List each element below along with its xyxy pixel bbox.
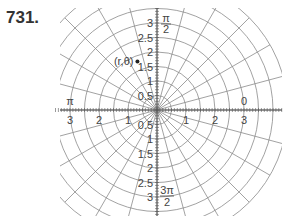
- radial-label-up: 1.5: [138, 61, 153, 73]
- radial-label-down: 1: [147, 133, 153, 145]
- horizontal-label-left: 2: [96, 114, 102, 126]
- polar-grid-diagram: 0.50.5111.51.5222.52.5331122330ππ23π2 (r…: [0, 0, 283, 221]
- radial-label-down: 1.5: [138, 148, 153, 160]
- grid-spoke: [157, 76, 283, 110]
- horizontal-label-left: 1: [125, 114, 131, 126]
- radial-label-up: 2.5: [138, 32, 153, 44]
- radial-label-down: 3: [147, 191, 153, 203]
- horizontal-label-left: 3: [67, 114, 73, 126]
- radial-label-up: 1: [147, 75, 153, 87]
- radial-label-down: 2: [147, 162, 153, 174]
- angle-label-0: 0: [241, 95, 247, 107]
- angle-label-pi-over-2-den: 2: [163, 23, 169, 35]
- grid-spoke: [157, 18, 249, 110]
- grid-spoke: [157, 110, 283, 144]
- radial-label-up: 0.5: [138, 90, 153, 102]
- horizontal-label-right: 1: [183, 114, 189, 126]
- angle-label-3pi-over-2-num: 3π: [160, 184, 174, 196]
- radial-label-up: 3: [147, 17, 153, 29]
- point-marker: [135, 60, 139, 64]
- angle-label-pi: π: [66, 95, 74, 107]
- horizontal-label-right: 3: [241, 114, 247, 126]
- angle-label-3pi-over-2-den: 2: [164, 196, 170, 208]
- radial-label-down: 0.5: [138, 119, 153, 131]
- horizontal-label-right: 2: [212, 114, 218, 126]
- point-label: (r,θ): [114, 55, 134, 67]
- radial-label-down: 2.5: [138, 177, 153, 189]
- radial-label-up: 2: [147, 46, 153, 58]
